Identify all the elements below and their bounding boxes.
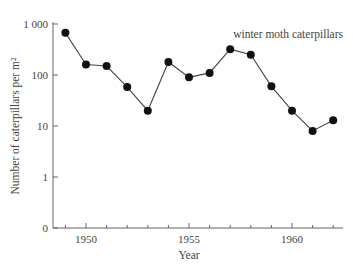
y-tick-label: 1 <box>43 171 49 183</box>
y-tick-label: 10 <box>37 120 49 132</box>
y-axis-title: Number of caterpillars per m² <box>9 57 22 194</box>
data-point-marker <box>288 107 296 115</box>
data-point-marker <box>329 116 337 124</box>
data-point-marker <box>247 51 255 59</box>
y-tick-label: 1 000 <box>23 18 48 30</box>
data-point-marker <box>144 107 152 115</box>
data-point-marker <box>164 58 172 66</box>
x-tick-label: 1960 <box>281 233 304 245</box>
data-point-marker <box>123 83 131 91</box>
data-point-marker <box>267 82 275 90</box>
data-point-marker <box>103 62 111 70</box>
data-point-marker <box>226 45 234 53</box>
line-chart: 01101001 000 195019551960 winter moth ca… <box>0 0 353 268</box>
data-point-marker <box>206 69 214 77</box>
y-axis: 01101001 000 <box>23 18 58 234</box>
x-axis: 195019551960 <box>53 223 343 245</box>
y-tick-label: 0 <box>43 222 49 234</box>
data-point-marker <box>82 61 90 69</box>
data-point-marker <box>309 127 317 135</box>
series-line <box>65 33 333 131</box>
data-point-marker <box>61 29 69 37</box>
data-point-marker <box>185 73 193 81</box>
data-series <box>61 29 337 135</box>
x-axis-title: Year <box>178 249 199 261</box>
x-tick-label: 1955 <box>178 233 201 245</box>
x-tick-label: 1950 <box>75 233 98 245</box>
series-label: winter moth caterpillars <box>233 28 343 41</box>
y-tick-label: 100 <box>32 69 49 81</box>
